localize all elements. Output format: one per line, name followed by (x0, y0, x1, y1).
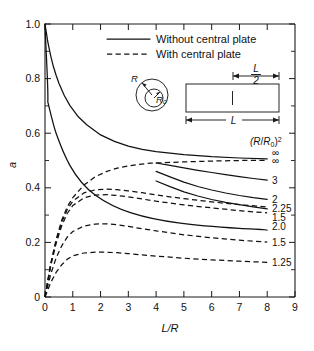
legend-label-without-central-plate: Without central plate (156, 33, 256, 45)
y-tick-label-3: 0.6 (25, 127, 40, 139)
inset-concentric-circles: R R₀ (131, 73, 168, 111)
y-tick-label-0: 0 (34, 291, 40, 303)
x-tick-label-4: 4 (153, 301, 159, 313)
legend-label-with-central-plate: With central plate (156, 48, 241, 60)
curve-solid-1-5 (156, 181, 267, 209)
inset-label-L-over-2-denominator: 2 (252, 75, 259, 86)
y-tick-label-4: 0.8 (25, 72, 40, 84)
inset-label-R0: R₀ (156, 94, 167, 105)
curve-label-2-0: 2.0 (272, 221, 286, 232)
curve-dashed-1-5 (45, 224, 267, 297)
curve-label-1-25: 1.25 (272, 257, 292, 268)
x-tick-label-6: 6 (209, 301, 215, 313)
y-tick-labels: 0 0.2 0.4 0.6 0.8 1.0 (25, 18, 40, 303)
x-tick-label-1: 1 (70, 301, 76, 313)
curve-label-1-5-dashed: 1.5 (272, 237, 286, 248)
x-tick-label-9: 9 (292, 301, 298, 313)
curve-label-infinity-dashed: ∞ (272, 155, 279, 166)
chart-figure: 0 0.2 0.4 0.6 0.8 1.0 a (0, 0, 314, 351)
x-tick-label-7: 7 (237, 301, 243, 313)
inset-label-R: R (131, 73, 138, 84)
x-tick-label-2: 2 (98, 301, 104, 313)
curve-label-3: 3 (272, 175, 278, 186)
y-tick-label-5: 1.0 (25, 18, 40, 30)
x-tick-label-3: 3 (125, 301, 131, 313)
y-axis-title: a (6, 162, 18, 168)
curve-dashed-2-0 (45, 195, 267, 297)
curve-dashed-1-25 (45, 252, 267, 297)
curve-dashed-2-25 (45, 189, 267, 297)
inset-rectangle: L 2 L (186, 63, 279, 126)
y-tick-label-2: 0.4 (25, 181, 40, 193)
x-axis-title: L/R (161, 322, 178, 334)
curve-right-labels: ∞ ∞ 3 2 2.25 1.5 2.0 1.5 1.25 (272, 147, 292, 268)
curve-solid-2 (156, 171, 267, 199)
x-tick-label-8: 8 (264, 301, 270, 313)
legend: Without central plate With central plate (107, 33, 256, 60)
y-tick-label-1: 0.2 (25, 236, 40, 248)
x-tick-labels: 0 1 2 3 4 5 6 7 8 9 (42, 301, 298, 313)
x-tick-label-5: 5 (181, 301, 187, 313)
x-tick-label-0: 0 (42, 301, 48, 313)
inset-label-L-over-2-numerator: L (253, 63, 259, 74)
inset-label-L: L (231, 115, 237, 126)
curve-series (45, 24, 267, 297)
